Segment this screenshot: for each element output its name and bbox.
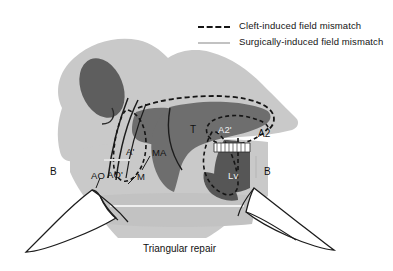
annotation-m: M xyxy=(137,172,145,182)
annotation-a2-prime: A2' xyxy=(218,125,232,135)
annotation-ma: MA xyxy=(152,148,166,158)
annotation-b-right: B xyxy=(264,167,271,177)
annotation-a-prime: A' xyxy=(126,147,134,157)
dashed-line-icon xyxy=(196,20,232,32)
solid-line-icon xyxy=(196,36,232,48)
annotation-t: T xyxy=(190,125,196,135)
legend-item-surgical: Surgically-induced field mismatch xyxy=(196,34,386,49)
suture-band xyxy=(214,143,250,152)
legend-label-surgical: Surgically-induced field mismatch xyxy=(239,36,383,47)
annotation-ao-prime: AO' xyxy=(107,170,123,180)
legend: Cleft-induced field mismatch Surgically-… xyxy=(196,18,386,50)
lip-lobe-right xyxy=(246,188,334,250)
figure-caption: Triangular repair xyxy=(143,243,216,254)
annotation-b-left: B xyxy=(50,167,57,177)
annotation-ao: AO xyxy=(91,171,105,181)
annotation-a2: A2 xyxy=(258,129,270,139)
annotation-lv: Lv xyxy=(228,171,238,181)
triangular-repair-figure: Cleft-induced field mismatch Surgically-… xyxy=(0,0,393,271)
legend-label-cleft: Cleft-induced field mismatch xyxy=(239,20,361,31)
legend-item-cleft: Cleft-induced field mismatch xyxy=(196,18,386,33)
